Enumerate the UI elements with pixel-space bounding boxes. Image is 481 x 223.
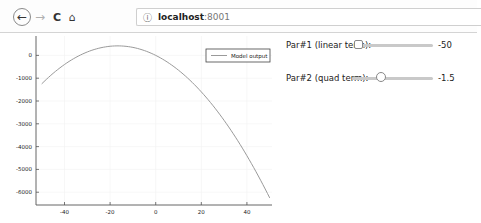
par1-slider-thumb[interactable] xyxy=(354,40,363,49)
par1-value: -50 xyxy=(438,40,452,50)
browser-toolbar: ← → C ⌂ ⓘ localhost:8001 xyxy=(0,0,477,33)
chart: -40-20020400-1000-2000-3000-4000-5000-60… xyxy=(0,33,290,223)
arrow-right-icon: → xyxy=(35,10,45,24)
info-icon[interactable]: ⓘ xyxy=(143,11,152,24)
y-tick-label: -6000 xyxy=(16,189,32,195)
url-host: localhost xyxy=(158,12,204,22)
y-tick-label: -4000 xyxy=(16,144,32,150)
par2-slider[interactable] xyxy=(352,77,433,80)
back-button[interactable]: ← xyxy=(13,8,31,26)
x-tick-label: 40 xyxy=(243,209,250,215)
x-tick-label: 0 xyxy=(154,209,158,215)
legend: Model output xyxy=(206,49,270,62)
legend-label: Model output xyxy=(231,53,268,60)
url-bar[interactable]: ⓘ localhost:8001 xyxy=(136,8,481,26)
y-tick-label: 0 xyxy=(29,52,33,58)
forward-button[interactable]: → xyxy=(34,9,46,25)
arrow-left-icon: ← xyxy=(17,11,27,23)
x-tick-label: 20 xyxy=(198,209,205,215)
par1-slider[interactable] xyxy=(355,44,433,47)
chart-ticks: -40-20020400-1000-2000-3000-4000-5000-60… xyxy=(16,52,251,215)
x-tick-label: -40 xyxy=(60,209,69,215)
reload-icon: C xyxy=(53,11,61,24)
par2-slider-thumb[interactable] xyxy=(376,72,386,82)
home-icon: ⌂ xyxy=(69,11,76,24)
y-tick-label: -5000 xyxy=(16,166,32,172)
par2-value: -1.5 xyxy=(438,73,455,83)
home-button[interactable]: ⌂ xyxy=(65,9,79,25)
reload-button[interactable]: C xyxy=(50,9,64,25)
y-tick-label: -1000 xyxy=(16,75,32,81)
x-tick-label: -20 xyxy=(106,209,115,215)
y-tick-label: -3000 xyxy=(16,121,32,127)
url-port: :8001 xyxy=(204,12,230,22)
y-tick-label: -2000 xyxy=(16,98,32,104)
